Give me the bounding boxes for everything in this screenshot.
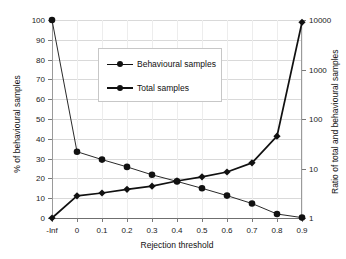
chart-canvas	[0, 0, 346, 259]
data-point	[224, 192, 231, 199]
data-point	[298, 19, 305, 26]
legend-item-total: Total samples	[107, 82, 189, 94]
legend-line-total-icon	[107, 83, 133, 93]
legend-item-behavioural: Behavioural samples	[107, 58, 216, 70]
data-point	[49, 17, 56, 24]
data-point	[99, 156, 106, 163]
legend-label-total: Total samples	[137, 83, 189, 93]
data-point	[299, 214, 306, 221]
y-left-axis-title: % of behavioural samples	[12, 64, 22, 184]
chart-legend: Behavioural samples Total samples	[98, 48, 222, 102]
data-point	[74, 148, 81, 155]
data-point	[198, 173, 205, 180]
data-point	[148, 183, 155, 190]
y-right-axis-title: Ratio of total and behavioural samples	[330, 54, 340, 194]
data-point	[199, 185, 206, 192]
data-point	[274, 211, 281, 218]
data-point	[149, 172, 156, 179]
data-point	[124, 164, 131, 171]
data-point	[223, 168, 230, 175]
chart-figure: 0102030405060708090100 110100100010000 -…	[0, 0, 346, 259]
data-point	[249, 200, 256, 207]
x-axis-title: Rejection threshold	[52, 240, 302, 250]
data-point	[123, 186, 130, 193]
legend-line-behavioural-icon	[107, 59, 133, 69]
data-point	[98, 189, 105, 196]
legend-label-behavioural: Behavioural samples	[137, 59, 216, 69]
